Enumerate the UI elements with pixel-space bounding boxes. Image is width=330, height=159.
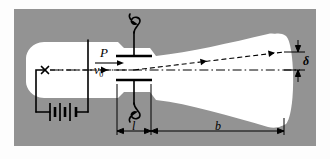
arrowhead-b-right bbox=[278, 128, 285, 133]
diagram-canvas bbox=[0, 0, 330, 159]
phosphor-screen-face bbox=[272, 34, 293, 127]
velocity-label: v0 bbox=[94, 64, 103, 79]
pigtail-lead-upper bbox=[129, 14, 140, 33]
arrowhead-delta-top bbox=[295, 46, 300, 53]
arrowhead-delta-bottom bbox=[295, 70, 300, 77]
deflection-label: δ bbox=[303, 55, 309, 67]
arrowhead-b-left bbox=[151, 128, 158, 133]
velocity-subscript: 0 bbox=[99, 70, 103, 79]
plate-label: P bbox=[100, 46, 108, 59]
screen-distance-label: b bbox=[215, 120, 221, 132]
battery-symbol bbox=[50, 103, 76, 121]
figure-root: P v0 l b δ bbox=[0, 0, 330, 159]
arrowhead-l-left bbox=[117, 128, 124, 133]
plate-length-label: l bbox=[132, 120, 135, 132]
